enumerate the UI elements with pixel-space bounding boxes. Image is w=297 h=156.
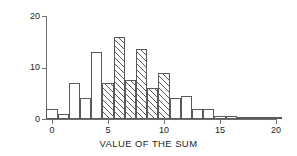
histogram-bar: [203, 109, 214, 119]
histogram-bar: [114, 37, 125, 119]
x-axis-tick: [276, 120, 277, 124]
histogram-bar: [214, 116, 225, 119]
histogram-bar: [102, 83, 113, 119]
histogram-bar: [158, 73, 169, 119]
y-axis-tick-label: 0: [18, 115, 40, 124]
y-axis-tick: [42, 119, 47, 120]
x-axis-tick-label: 20: [266, 126, 286, 135]
x-axis-tick: [164, 120, 165, 124]
histogram-chart: 01020 05101520 VALUE OF THE SUM: [0, 0, 297, 156]
x-axis-tick: [220, 120, 221, 124]
histogram-bar: [181, 96, 192, 119]
histogram-bar: [69, 83, 80, 119]
plot-area: [52, 16, 276, 119]
histogram-bar: [170, 98, 181, 119]
x-axis-line: [46, 119, 277, 120]
histogram-bar: [270, 117, 281, 119]
histogram-bar: [192, 109, 203, 119]
histogram-bar: [226, 116, 237, 119]
histogram-bar: [46, 109, 57, 119]
histogram-bar: [248, 117, 259, 119]
histogram-bar: [80, 98, 91, 119]
x-axis-tick: [52, 120, 53, 124]
x-axis-tick-label: 5: [98, 126, 118, 135]
histogram-bar: [259, 117, 270, 119]
y-axis-tick: [42, 16, 47, 17]
x-axis-tick: [108, 120, 109, 124]
histogram-bar: [237, 117, 248, 119]
histogram-bar: [125, 80, 136, 119]
histogram-bar: [91, 52, 102, 119]
x-axis-tick-label: 15: [210, 126, 230, 135]
x-axis-tick-label: 10: [154, 126, 174, 135]
histogram-bar: [58, 114, 69, 119]
y-axis-tick-label: 10: [18, 63, 40, 72]
y-axis-tick: [42, 68, 47, 69]
histogram-bar: [147, 88, 158, 119]
y-axis-tick-label: 20: [18, 12, 40, 21]
x-axis-tick-label: 0: [42, 126, 62, 135]
x-axis-title: VALUE OF THE SUM: [0, 138, 297, 149]
histogram-bar: [136, 49, 147, 119]
